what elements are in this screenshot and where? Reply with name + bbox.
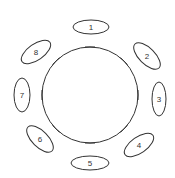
node-4: 4	[120, 129, 157, 162]
node-label: 4	[137, 141, 142, 150]
tick-mark	[53, 58, 60, 65]
node-2: 2	[129, 38, 164, 73]
tick-mark	[120, 58, 127, 65]
node-label: 8	[34, 48, 39, 57]
node-5: 5	[71, 156, 109, 170]
node-1: 1	[73, 20, 109, 34]
node-3: 3	[152, 82, 166, 116]
circular-diagram: 1 2 3 4 5 6 7 8	[0, 0, 175, 178]
node-label: 2	[145, 52, 150, 61]
tick-mark	[53, 125, 60, 132]
node-label: 6	[38, 135, 43, 144]
node-6: 6	[22, 121, 57, 156]
node-label: 5	[88, 159, 93, 168]
node-8: 8	[17, 36, 54, 69]
node-7: 7	[14, 78, 30, 112]
tick-mark	[120, 125, 127, 132]
node-label: 7	[20, 91, 25, 100]
node-label: 3	[157, 95, 162, 104]
tick-marks	[42, 47, 138, 143]
node-label: 1	[89, 23, 94, 32]
